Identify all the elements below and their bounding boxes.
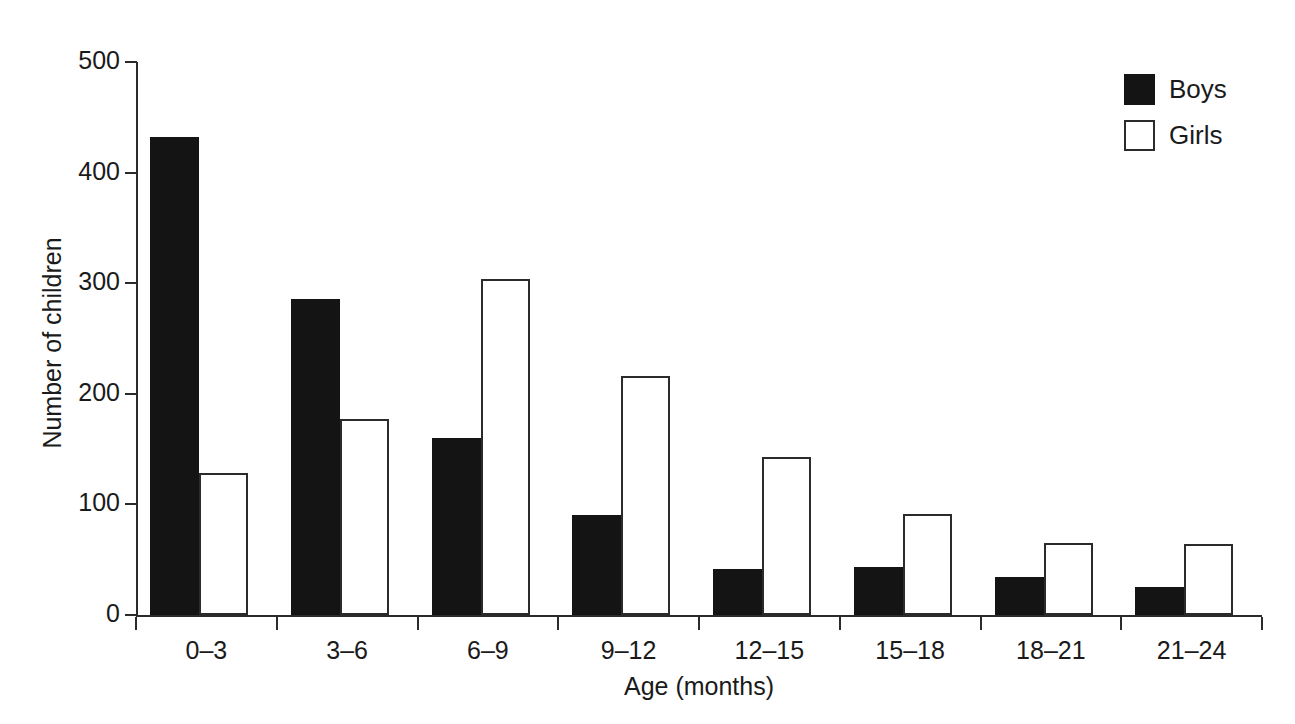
y-axis-tick xyxy=(125,503,137,505)
bar-girls-12-15 xyxy=(762,457,811,615)
y-axis-tick-label: 0 xyxy=(48,601,120,627)
bar-girls-9-12 xyxy=(621,376,670,615)
y-axis-tick xyxy=(125,61,137,63)
bar-girls-0-3 xyxy=(199,473,248,615)
y-axis-tick xyxy=(125,172,137,174)
bar-girls-15-18 xyxy=(903,514,952,615)
bar-girls-18-21 xyxy=(1044,543,1093,615)
legend: Boys Girls xyxy=(1124,72,1292,164)
plot-area: 0100200300400500 0–33–66–99–1212–1515–18… xyxy=(0,0,1295,724)
y-axis-tick xyxy=(125,282,137,284)
y-axis-tick-label-text: 500 xyxy=(58,48,120,73)
legend-label-boys: Boys xyxy=(1169,72,1227,106)
y-axis-tick xyxy=(125,614,137,616)
y-axis-tick-label-text: 100 xyxy=(58,490,120,515)
legend-swatch-girls-icon xyxy=(1124,120,1155,151)
y-axis-tick-label-text: 400 xyxy=(58,159,120,184)
bar-girls-21-24 xyxy=(1184,544,1233,615)
bar-girls-6-9 xyxy=(481,279,530,615)
legend-label-girls: Girls xyxy=(1169,118,1222,152)
bar-chart-figure: 0100200300400500 0–33–66–99–1212–1515–18… xyxy=(0,0,1295,724)
x-axis-title: Age (months) xyxy=(136,672,1262,700)
y-axis-tick-label: 400 xyxy=(48,159,120,185)
x-axis-tick xyxy=(557,617,559,630)
x-axis-tick xyxy=(135,617,137,630)
bar-boys-15-18 xyxy=(854,567,903,615)
legend-swatch-boys-icon xyxy=(1124,74,1155,105)
x-axis-category-label: 3–6 xyxy=(277,636,418,664)
y-axis-line xyxy=(136,62,138,617)
y-axis-tick xyxy=(125,393,137,395)
bar-boys-18-21 xyxy=(995,577,1044,615)
bar-girls-3-6 xyxy=(340,419,389,615)
x-axis-tick xyxy=(698,617,700,630)
x-axis-category-label: 12–15 xyxy=(699,636,840,664)
y-axis-tick-label: 500 xyxy=(48,48,120,74)
x-axis-category-label: 18–21 xyxy=(981,636,1122,664)
bar-boys-0-3 xyxy=(150,137,199,615)
x-axis-tick xyxy=(276,617,278,630)
bar-boys-9-12 xyxy=(572,515,621,615)
x-axis-tick xyxy=(980,617,982,630)
x-axis-category-label: 21–24 xyxy=(1121,636,1262,664)
y-axis-tick-label-text: 300 xyxy=(58,269,120,294)
x-axis-tick xyxy=(1120,617,1122,630)
x-axis-category-label: 9–12 xyxy=(558,636,699,664)
x-axis-tick xyxy=(1261,617,1263,630)
bar-boys-12-15 xyxy=(713,569,762,615)
x-axis-category-label: 15–18 xyxy=(840,636,981,664)
x-axis-category-label: 0–3 xyxy=(136,636,277,664)
x-axis-tick xyxy=(417,617,419,630)
bar-boys-21-24 xyxy=(1135,587,1184,615)
x-axis-tick xyxy=(839,617,841,630)
y-axis-title: Number of children xyxy=(39,193,65,493)
legend-item-boys: Boys xyxy=(1124,72,1292,118)
y-axis-tick-label: 100 xyxy=(48,490,120,516)
legend-item-girls: Girls xyxy=(1124,118,1292,164)
x-axis-category-label: 6–9 xyxy=(418,636,559,664)
bar-boys-3-6 xyxy=(291,299,340,615)
y-axis-tick-label-text: 0 xyxy=(58,601,120,626)
bar-boys-6-9 xyxy=(432,438,481,615)
y-axis-tick-label-text: 200 xyxy=(58,380,120,405)
